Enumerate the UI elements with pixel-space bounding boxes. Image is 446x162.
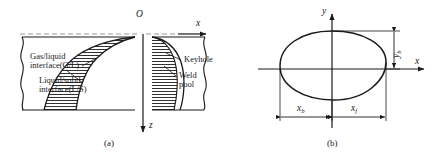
dim-xb-subscript: b xyxy=(301,107,304,114)
caption-b: (b) xyxy=(327,139,338,149)
weld-pool-boundary-top-view xyxy=(280,31,386,100)
dim-xf-label: xf xyxy=(351,103,357,113)
keyhole-label: Keyhole xyxy=(184,55,213,64)
x-axis-label-b: x xyxy=(415,56,419,66)
dim-yb-label: yb xyxy=(391,50,401,58)
figure-container: Gas/liquid interface(G/L) Liquid/solid i… xyxy=(0,0,446,162)
gas-liquid-interface-label: Gas/liquid interface(G/L) xyxy=(30,52,79,71)
dim-xf-subscript: f xyxy=(355,107,357,114)
weld-pool-label-line2: pool xyxy=(179,80,197,89)
panel-a-left-slab xyxy=(21,37,135,110)
z-axis-label-a: z xyxy=(149,120,153,130)
origin-label-a: O xyxy=(136,9,143,19)
dim-yb-subscript: b xyxy=(395,50,402,53)
liquid-solid-interface-label: Liquid/solid interface(L/S) xyxy=(39,76,87,95)
keyhole-label-line1: Keyhole xyxy=(184,55,213,64)
panel-b xyxy=(258,14,424,128)
weld-pool-label: Weld pool xyxy=(179,71,197,90)
y-axis-label-b: y xyxy=(322,6,326,16)
dim-yb-symbol: y xyxy=(391,54,401,58)
liquid-solid-interface-line2: interface(L/S) xyxy=(39,85,87,94)
caption-a: (a) xyxy=(104,139,114,149)
gas-liquid-interface-line2: interface(G/L) xyxy=(30,61,79,70)
dim-xb-label: xb xyxy=(297,103,305,113)
x-axis-label-a: x xyxy=(196,18,200,28)
